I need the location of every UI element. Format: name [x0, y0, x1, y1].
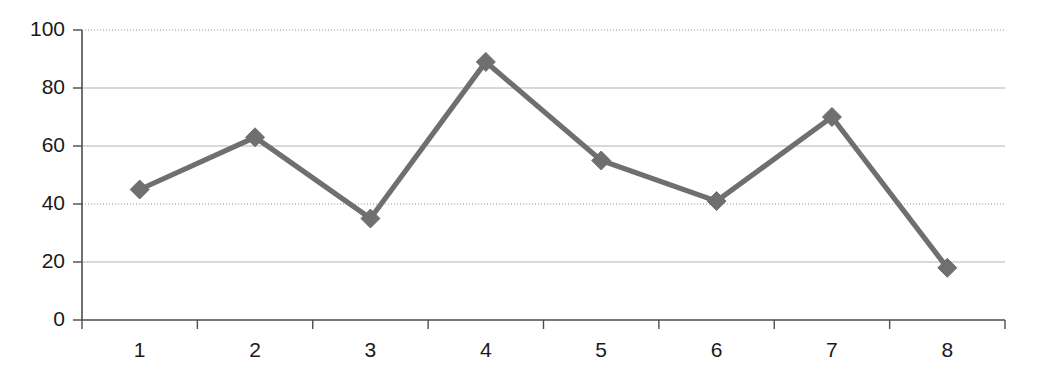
- y-tick-labels: 020406080100: [30, 17, 65, 330]
- chart-canvas: 020406080100 12345678: [0, 0, 1043, 384]
- gridlines: [82, 30, 1005, 262]
- y-tick-label-40: 40: [42, 191, 65, 214]
- x-tick-label-4: 4: [480, 338, 492, 361]
- x-tick-label-2: 2: [249, 338, 261, 361]
- data-series: [140, 62, 948, 268]
- x-tick-labels: 12345678: [134, 338, 953, 361]
- x-axis: [82, 320, 1005, 329]
- y-tick-label-100: 100: [30, 17, 65, 40]
- y-tick-label-60: 60: [42, 133, 65, 156]
- data-point-1: [130, 180, 149, 199]
- y-tick-label-20: 20: [42, 249, 65, 272]
- x-tick-label-5: 5: [595, 338, 607, 361]
- series-line-1: [140, 62, 948, 268]
- line-chart: 020406080100 12345678: [0, 0, 1043, 384]
- x-tick-label-3: 3: [365, 338, 377, 361]
- y-tick-label-80: 80: [42, 75, 65, 98]
- y-tick-label-0: 0: [53, 307, 65, 330]
- data-markers: [130, 52, 957, 277]
- x-tick-label-7: 7: [826, 338, 838, 361]
- y-axis: [73, 30, 82, 320]
- x-tick-label-1: 1: [134, 338, 146, 361]
- x-tick-label-6: 6: [711, 338, 723, 361]
- x-tick-label-8: 8: [941, 338, 953, 361]
